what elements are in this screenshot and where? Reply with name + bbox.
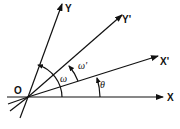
x-prime-axis-extension [8,97,28,104]
y-axis-label: Y [65,3,72,14]
coordinate-rotation-diagram: O X X' Y' Y ω ω' θ [0,0,180,129]
y-prime-axis [28,15,122,97]
omega-label: ω [60,73,67,84]
theta-label: θ [100,79,105,90]
omega-prime-label: ω' [78,60,88,71]
x-axis-label: X [167,92,174,103]
y-prime-axis-label: Y' [122,14,131,25]
x-prime-axis [28,56,158,97]
origin-label: O [14,85,22,96]
y-axis [28,4,62,97]
omega-prime-arc [69,66,78,81]
x-prime-axis-label: X' [160,56,169,67]
